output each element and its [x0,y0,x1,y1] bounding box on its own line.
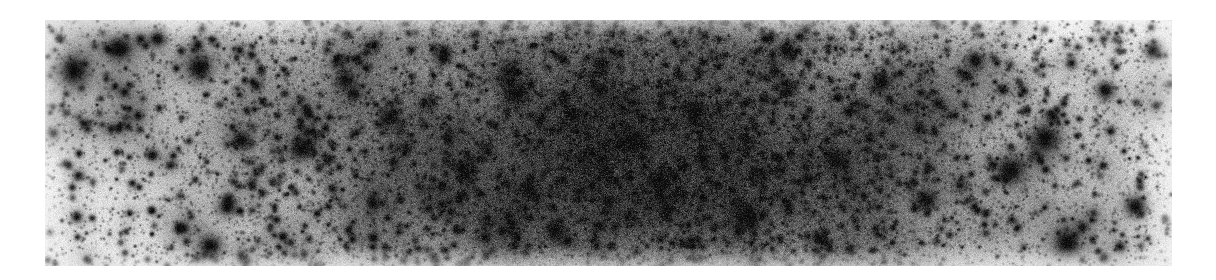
star-field-figure [45,20,1172,266]
page-root: Inverted greyscale astronomical image of… [0,0,1216,280]
star-field-canvas [45,20,1172,266]
